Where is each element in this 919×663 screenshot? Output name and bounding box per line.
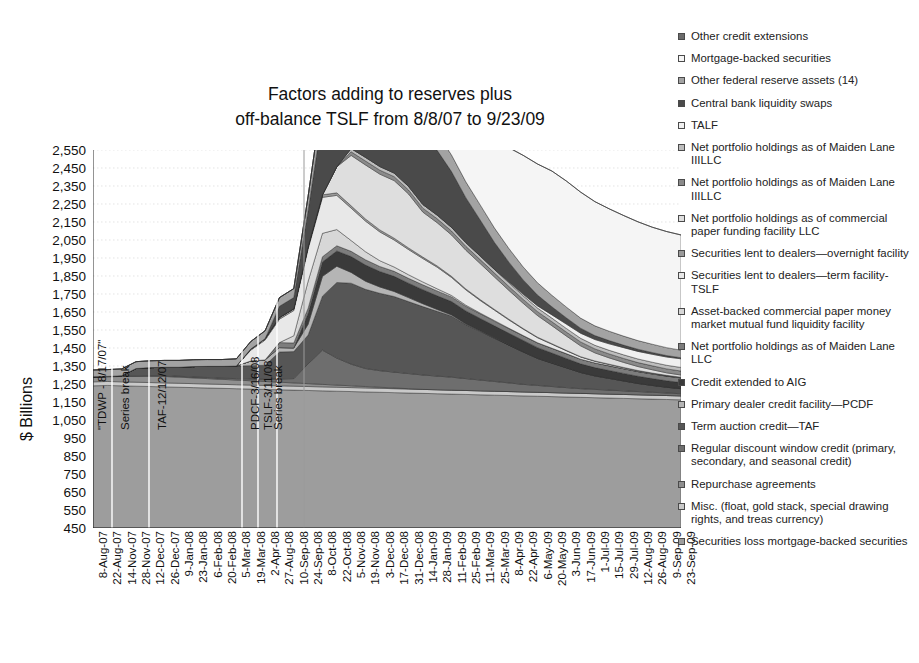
x-tick-label: 2-Apr-08 [269,531,281,576]
legend-item-label: Repurchase agreements [691,478,816,491]
x-tick-label: 28-Nov-07 [140,531,152,585]
x-tick-label: 20-May-09 [556,531,568,586]
y-tick-label: 750 [63,467,86,482]
legend-item[interactable]: Misc. (float, gold stack, special drawin… [678,500,916,526]
chart-legend: Other credit extensionsMortgage-backed s… [678,30,916,557]
x-tick-label: 26-Aug-09 [656,531,668,585]
legend-item[interactable]: Securities lent to dealers—overnight fac… [678,247,916,260]
x-tick-label: 9-Jan-08 [183,531,195,576]
legend-swatch-icon [678,122,685,129]
plot-annotation: TAF-12/12/07 [156,361,168,430]
y-tick-label: 1,450 [52,341,86,356]
legend-item-label: Net portfolio holdings as of commercial … [691,212,916,238]
legend-item[interactable]: Net portfolio holdings as of Maiden Lane… [678,141,916,167]
legend-swatch-icon [678,445,685,452]
legend-item-label: Net portfolio holdings as of Maiden Lane… [691,141,916,167]
legend-item[interactable]: Net portfolio holdings as of Maiden Lane… [678,340,916,366]
legend-item-label: Securities lent to dealers—term facility… [691,269,916,295]
legend-item[interactable]: Term auction credit—TAF [678,420,916,433]
legend-item-label: Securities loss mortgage-backed securiti… [691,535,908,548]
legend-swatch-icon [678,538,685,545]
legend-item[interactable]: Regular discount window credit (primary,… [678,442,916,468]
legend-item[interactable]: Other federal reserve assets (14) [678,74,916,87]
y-tick-label: 2,150 [52,215,86,230]
chart-title-line-2: off-balance TSLF from 8/8/07 to 9/23/09 [150,107,630,132]
legend-swatch-icon [678,379,685,386]
legend-swatch-icon [678,272,685,279]
chart-container: Factors adding to reserves plus off-bala… [0,0,919,663]
x-tick-label: 8-Oct-08 [326,531,338,576]
y-tick-label: 1,550 [52,323,86,338]
x-tick-label: 12-Dec-07 [154,531,166,585]
y-tick-label: 2,350 [52,179,86,194]
y-tick-label: 1,250 [52,377,86,392]
y-tick-label: 1,850 [52,269,86,284]
legend-item[interactable]: Securities loss mortgage-backed securiti… [678,535,916,548]
x-tick-label: 5-Mar-08 [240,531,252,578]
y-tick-label: 850 [63,449,86,464]
legend-item[interactable]: Central bank liquidity swaps [678,97,916,110]
y-tick-label: 2,450 [52,161,86,176]
legend-swatch-icon [678,77,685,84]
x-tick-label: 25-Feb-09 [470,531,482,584]
x-tick-label: 12-Aug-09 [642,531,654,585]
legend-swatch-icon [678,343,685,350]
legend-swatch-icon [678,215,685,222]
y-tick-label: 950 [63,431,86,446]
legend-item-label: Central bank liquidity swaps [691,97,832,110]
legend-item[interactable]: Credit extended to AIG [678,376,916,389]
legend-swatch-icon [678,179,685,186]
stacked-area-svg [93,150,681,528]
x-tick-label: 28-Jan-09 [441,531,453,583]
legend-item-label: Net portfolio holdings as of Maiden Lane… [691,340,916,366]
legend-swatch-icon [678,423,685,430]
legend-item[interactable]: TALF [678,119,916,132]
area-series [93,385,681,528]
y-tick-label: 450 [63,521,86,536]
x-tick-label: 22-Apr-09 [527,531,539,582]
legend-item-label: Securities lent to dealers—overnight fac… [691,247,909,260]
x-tick-label: 3-Dec-08 [384,531,396,578]
legend-item[interactable]: Primary dealer credit facility—PCDF [678,398,916,411]
x-tick-label: 31-Dec-08 [413,531,425,585]
plot-annotation: "TDWP - 8/17/07" [96,340,108,430]
y-tick-label: 1,050 [52,413,86,428]
legend-swatch-icon [678,401,685,408]
y-tick-label: 1,750 [52,287,86,302]
x-axis-tick-labels: 8-Aug-0722-Aug-0714-Nov-0728-Nov-0712-De… [93,531,693,661]
legend-swatch-icon [678,250,685,257]
legend-item-label: Asset-backed commercial paper money mark… [691,305,916,331]
legend-swatch-icon [678,33,685,40]
legend-item-label: Other credit extensions [691,30,808,43]
legend-swatch-icon [678,55,685,62]
y-tick-label: 550 [63,503,86,518]
y-tick-label: 2,050 [52,233,86,248]
x-tick-label: 17-Jun-09 [585,531,597,583]
x-tick-label: 10-Sep-08 [298,531,310,585]
legend-item[interactable]: Other credit extensions [678,30,916,43]
y-tick-label: 2,550 [52,143,86,158]
legend-item[interactable]: Securities lent to dealers—term facility… [678,269,916,295]
x-tick-label: 3-Jun-09 [570,531,582,576]
x-tick-label: 6-Feb-08 [212,531,224,578]
legend-item[interactable]: Mortgage-backed securities [678,52,916,65]
legend-item[interactable]: Net portfolio holdings as of commercial … [678,212,916,238]
x-tick-label: 24-Sep-08 [312,531,324,585]
legend-item-label: Credit extended to AIG [691,376,806,389]
x-tick-label: 11-Feb-09 [456,531,468,583]
x-tick-label: 19-Mar-08 [255,531,267,584]
plot-area [93,150,681,528]
x-tick-label: 14-Jan-09 [427,531,439,583]
legend-item[interactable]: Asset-backed commercial paper money mark… [678,305,916,331]
x-tick-label: 5-Nov-08 [355,531,367,578]
y-tick-label: 650 [63,485,86,500]
plot-annotation: PDCF-3/16/08 [249,356,261,430]
legend-swatch-icon [678,503,685,510]
x-tick-label: 8-Aug-07 [97,531,109,578]
x-tick-label: 11-Mar-09 [484,531,496,583]
legend-item[interactable]: Net portfolio holdings as of Maiden Lane… [678,176,916,202]
x-tick-label: 20-Feb-08 [226,531,238,584]
legend-item-label: TALF [691,119,718,132]
x-tick-label: 22-Aug-07 [111,531,123,585]
legend-item[interactable]: Repurchase agreements [678,478,916,491]
